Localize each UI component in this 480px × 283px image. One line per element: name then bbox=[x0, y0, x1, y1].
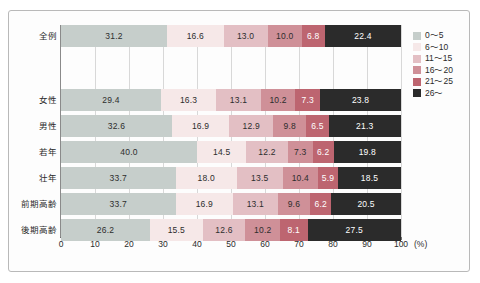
bar-segment[interactable]: 10.0 bbox=[268, 25, 302, 47]
legend-item[interactable]: 0〜5 bbox=[413, 31, 453, 40]
bar-segment[interactable]: 10.2 bbox=[261, 89, 296, 111]
legend-item[interactable]: 26〜 bbox=[413, 89, 453, 98]
legend-label: 26〜 bbox=[425, 89, 443, 98]
x-axis-percent-label: (%) bbox=[414, 239, 427, 249]
bar-segment[interactable]: 40.0 bbox=[61, 141, 197, 163]
bar-segment[interactable]: 27.5 bbox=[308, 219, 401, 241]
bar-segment[interactable]: 13.0 bbox=[224, 25, 268, 47]
legend-label: 0〜5 bbox=[425, 31, 443, 40]
category-label: 全例 bbox=[9, 25, 57, 47]
bar-segment[interactable]: 6.5 bbox=[306, 115, 328, 137]
category-label: 女性 bbox=[9, 89, 57, 111]
bar-segment[interactable]: 13.1 bbox=[233, 193, 278, 215]
bar-segment[interactable]: 16.3 bbox=[161, 89, 216, 111]
gridline bbox=[401, 25, 402, 237]
bar-row[interactable]: 40.014.512.27.36.219.8 bbox=[61, 141, 401, 163]
bar-row[interactable]: 26.215.512.610.28.127.5 bbox=[61, 219, 401, 241]
bar-segment[interactable]: 32.6 bbox=[61, 115, 172, 137]
bar-segment[interactable]: 33.7 bbox=[61, 193, 176, 215]
category-label: 壮年 bbox=[9, 167, 57, 189]
bar-row[interactable]: 32.616.912.99.86.521.3 bbox=[61, 115, 401, 137]
legend-swatch-icon bbox=[413, 32, 421, 40]
bar-segment[interactable]: 10.2 bbox=[245, 219, 280, 241]
bar-segment[interactable]: 13.1 bbox=[216, 89, 261, 111]
chart-legend: 0〜56〜1011〜1516〜2021〜2526〜 bbox=[413, 31, 453, 98]
bar-row[interactable]: 31.216.613.010.06.822.4 bbox=[61, 25, 401, 47]
legend-label: 11〜15 bbox=[425, 54, 452, 63]
bar-segment[interactable]: 13.5 bbox=[237, 167, 283, 189]
legend-item[interactable]: 16〜20 bbox=[413, 66, 453, 75]
bar-segment[interactable]: 29.4 bbox=[61, 89, 161, 111]
bar-segment[interactable]: 18.5 bbox=[338, 167, 401, 189]
bar-segment[interactable]: 23.8 bbox=[320, 89, 401, 111]
legend-label: 16〜20 bbox=[425, 66, 453, 75]
bar-segment[interactable]: 10.4 bbox=[283, 167, 318, 189]
legend-label: 21〜25 bbox=[425, 77, 453, 86]
legend-item[interactable]: 21〜25 bbox=[413, 77, 453, 86]
bar-row[interactable]: 33.718.013.510.45.918.5 bbox=[61, 167, 401, 189]
bar-segment[interactable]: 22.4 bbox=[325, 25, 401, 47]
x-axis-tick-mark bbox=[401, 237, 402, 240]
category-label: 若年 bbox=[9, 141, 57, 163]
bar-segment[interactable]: 18.0 bbox=[176, 167, 237, 189]
bar-segment[interactable]: 6.2 bbox=[313, 141, 334, 163]
legend-swatch-icon bbox=[413, 55, 421, 63]
category-label: 後期高齢 bbox=[9, 219, 57, 241]
bar-segment[interactable]: 9.6 bbox=[278, 193, 311, 215]
bar-segment[interactable]: 26.2 bbox=[61, 219, 150, 241]
category-label: 男性 bbox=[9, 115, 57, 137]
bar-segment[interactable]: 8.1 bbox=[280, 219, 308, 241]
bar-segment[interactable]: 21.3 bbox=[329, 115, 401, 137]
legend-swatch-icon bbox=[413, 43, 421, 51]
legend-item[interactable]: 6〜10 bbox=[413, 43, 453, 52]
bar-segment[interactable]: 16.9 bbox=[176, 193, 233, 215]
bar-segment[interactable]: 12.6 bbox=[203, 219, 246, 241]
bar-segment[interactable]: 20.5 bbox=[331, 193, 401, 215]
bar-segment[interactable]: 7.3 bbox=[295, 89, 320, 111]
bar-row[interactable]: 33.716.913.19.66.220.5 bbox=[61, 193, 401, 215]
bar-row[interactable]: 29.416.313.110.27.323.8 bbox=[61, 89, 401, 111]
legend-swatch-icon bbox=[413, 78, 421, 86]
category-label: 前期高齢 bbox=[9, 193, 57, 215]
bar-segment[interactable]: 7.3 bbox=[288, 141, 313, 163]
bar-segment[interactable]: 15.5 bbox=[150, 219, 203, 241]
bar-segment[interactable]: 14.5 bbox=[197, 141, 246, 163]
legend-item[interactable]: 11〜15 bbox=[413, 54, 453, 63]
bar-segment[interactable]: 12.9 bbox=[229, 115, 273, 137]
bar-segment[interactable]: 6.8 bbox=[302, 25, 325, 47]
bar-segment[interactable]: 31.2 bbox=[61, 25, 167, 47]
legend-swatch-icon bbox=[413, 66, 421, 74]
bar-segment[interactable]: 19.8 bbox=[334, 141, 401, 163]
bar-segment[interactable]: 9.8 bbox=[273, 115, 306, 137]
bar-segment[interactable]: 6.2 bbox=[310, 193, 331, 215]
bar-segment[interactable]: 16.6 bbox=[167, 25, 223, 47]
legend-label: 6〜10 bbox=[425, 43, 448, 52]
bar-segment[interactable]: 33.7 bbox=[61, 167, 176, 189]
chart-frame: 0102030405060708090100 (%) 31.216.613.01… bbox=[8, 10, 470, 272]
legend-swatch-icon bbox=[413, 89, 421, 97]
bar-segment[interactable]: 12.2 bbox=[246, 141, 287, 163]
bar-segment[interactable]: 16.9 bbox=[172, 115, 229, 137]
bar-segment[interactable]: 5.9 bbox=[318, 167, 338, 189]
